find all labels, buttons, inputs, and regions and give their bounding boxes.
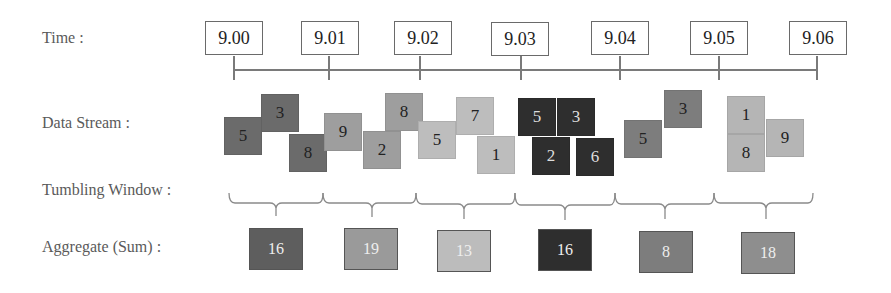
window-brace-5: [615, 193, 714, 219]
window-brace-3: [416, 193, 515, 219]
aggregate-sum-window-3: 13: [437, 230, 491, 272]
aggregate-sum-window-5: 8: [639, 231, 693, 273]
aggregate-sum-window-1: 16: [249, 228, 303, 270]
aggregate-sum-window-4: 16: [538, 229, 592, 271]
aggregate-sum-window-6: 18: [741, 232, 795, 274]
window-brace-4: [515, 193, 615, 220]
window-brace-2: [323, 193, 416, 217]
aggregate-sum-window-2: 19: [344, 228, 398, 270]
window-brace-6: [714, 193, 813, 219]
window-brace-1: [229, 193, 323, 216]
